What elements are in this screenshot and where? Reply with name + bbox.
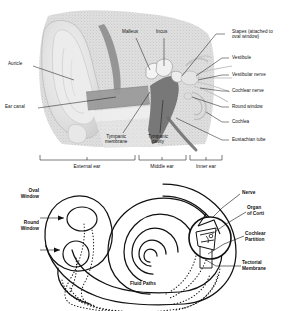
label-malleus: Malleus (122, 29, 138, 34)
label-organ-of-corti: Organ of Corti (247, 205, 264, 216)
round-window-shape (184, 93, 192, 100)
label-incus: Incus (156, 29, 167, 34)
label-vestibular-nerve: Vestibular nerve (232, 72, 266, 77)
label-cochlear-nerve: Cochlear nerve (232, 88, 264, 93)
oval-window-circle (67, 207, 97, 231)
label-ear-canal: Ear canal (5, 104, 25, 109)
label-round-window: Round Window (11, 220, 39, 231)
label-tectorial-membrane: Tectorial Membrane (242, 260, 266, 271)
label-eustachian-tube: Eustachian tube (232, 137, 266, 142)
window-arrowheads (54, 216, 64, 253)
label-oval-window: Oval Window (13, 188, 39, 199)
label-round-window: Round window (232, 104, 263, 109)
label-inner-ear: Inner ear (185, 163, 227, 169)
label-vestibule: Vestibule (232, 55, 251, 60)
label-external-ear: External ear (62, 163, 112, 169)
ear-region-brackets (40, 155, 222, 160)
label-cochlear-partition: Cochlear Partition (245, 231, 266, 242)
label-tympanic-cavity: Tympanic cavity (148, 134, 168, 145)
label-cochlea: Cochlea (232, 119, 249, 124)
label-fluid-paths: Fluid Paths (128, 281, 158, 287)
round-window-circle (63, 241, 89, 267)
cochlea-schematic-svg (0, 176, 294, 311)
label-stapes: Stapes (attached to oval window) (232, 29, 273, 40)
label-auricle: Auricle (8, 61, 22, 66)
ear-anatomy-figure: Auricle Ear canal Malleus Incus Stapes (… (0, 0, 294, 311)
label-tympanic-membrane: Tympanic membrane (105, 134, 127, 145)
label-nerve: Nerve (242, 190, 255, 196)
label-middle-ear: Middle ear (139, 163, 185, 169)
